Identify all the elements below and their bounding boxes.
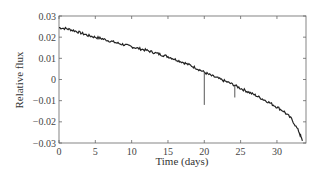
y-tick-label: 0	[51, 74, 56, 85]
plot-frame	[59, 16, 306, 143]
y-tick-label: −0.03	[33, 138, 56, 149]
chart: 051015202530 0.030.020.010−0.01−0.02−0.0…	[0, 0, 321, 180]
y-axis-label: Relative flux	[13, 51, 25, 109]
x-tick-label: 30	[272, 146, 282, 157]
x-tick-label: 5	[93, 146, 98, 157]
light-curve-line	[59, 28, 302, 141]
x-tick-label: 0	[57, 146, 62, 157]
y-tick-label: −0.01	[33, 95, 56, 106]
y-tick-label: 0.02	[39, 32, 57, 43]
x-axis-label: Time (days)	[155, 155, 208, 168]
x-tick-label: 10	[127, 146, 137, 157]
y-tick-label: 0.03	[39, 11, 57, 22]
y-tick-label: 0.01	[39, 53, 57, 64]
x-tick-label: 25	[236, 146, 246, 157]
y-tick-label: −0.02	[33, 116, 56, 127]
